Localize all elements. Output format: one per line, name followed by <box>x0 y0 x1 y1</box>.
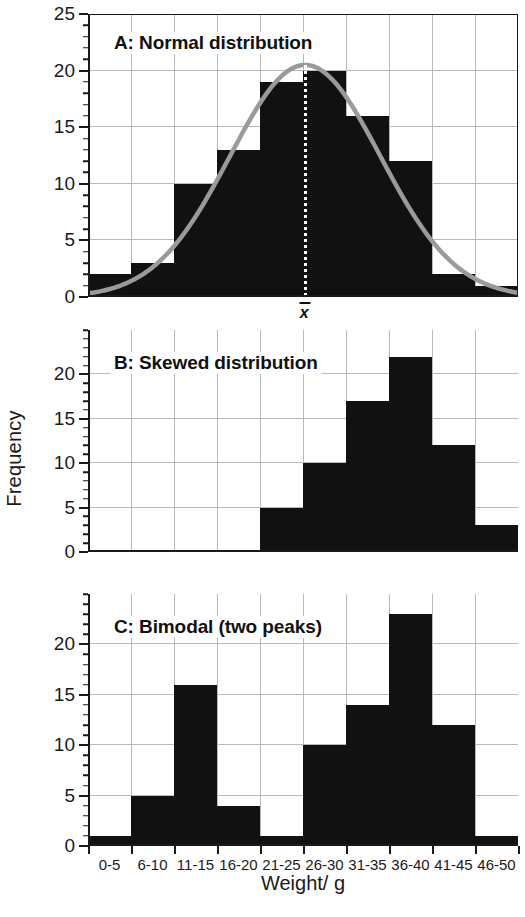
tick-mark <box>79 239 88 241</box>
gridline-horizontal <box>88 694 518 695</box>
tick-mark <box>83 217 88 219</box>
tick-mark <box>83 480 88 482</box>
y-axis-tick-label: 5 <box>64 229 75 251</box>
x-axis-category-label: 16-20 <box>219 856 257 873</box>
x-axis-tick <box>389 846 391 854</box>
tick-mark <box>83 391 88 393</box>
histogram-bar <box>217 150 260 297</box>
histogram-bar <box>432 725 475 846</box>
y-axis-tick-label: 10 <box>54 173 75 195</box>
y-axis-tick-label: 15 <box>54 684 75 706</box>
gridline-horizontal <box>88 418 518 419</box>
y-axis-tick-label: 15 <box>54 116 75 138</box>
tick-mark <box>83 329 88 331</box>
tick-mark <box>83 138 88 140</box>
x-axis-category-label: 11-15 <box>177 856 214 873</box>
histogram-bar <box>432 445 475 552</box>
tick-mark <box>79 795 88 797</box>
tick-mark <box>83 454 88 456</box>
gridline-vertical <box>475 330 476 552</box>
x-axis-category-label: 0-5 <box>99 856 121 873</box>
histogram-bar <box>131 263 174 297</box>
x-axis-tick <box>88 846 90 854</box>
tick-mark <box>83 664 88 666</box>
tick-mark <box>83 805 88 807</box>
tick-mark <box>83 194 88 196</box>
x-axis-category-label: 31-35 <box>348 856 386 873</box>
y-axis-tick-label: 10 <box>54 452 75 474</box>
x-axis-category-label: 41-45 <box>434 856 472 873</box>
tick-mark <box>79 845 88 847</box>
tick-mark <box>83 149 88 151</box>
x-axis-category-label: 46-50 <box>477 856 515 873</box>
tick-mark <box>83 785 88 787</box>
y-axis-tick-label: 15 <box>54 408 75 430</box>
tick-mark <box>79 296 88 298</box>
mean-symbol-text: x <box>300 304 309 321</box>
tick-mark <box>83 533 88 535</box>
tick-mark <box>83 347 88 349</box>
tick-mark <box>83 542 88 544</box>
tick-mark <box>83 765 88 767</box>
gridline-horizontal <box>88 643 518 644</box>
y-axis-title: Frequency <box>3 379 26 539</box>
panel-b-caption: B: Skewed distribution <box>110 352 322 374</box>
histogram-bar <box>303 71 346 297</box>
tick-mark <box>83 228 88 230</box>
tick-mark <box>83 400 88 402</box>
tick-mark <box>79 694 88 696</box>
y-axis-tick-label: 5 <box>64 785 75 807</box>
histogram-bar <box>346 705 389 846</box>
tick-mark <box>79 126 88 128</box>
histogram-bar <box>389 161 432 297</box>
mean-indicator-line <box>304 65 307 297</box>
tick-mark <box>83 516 88 518</box>
tick-mark <box>83 489 88 491</box>
tick-mark <box>83 775 88 777</box>
tick-mark <box>83 251 88 253</box>
gridline-vertical <box>131 14 132 297</box>
histogram-bar <box>346 116 389 297</box>
histogram-bar <box>389 357 432 552</box>
x-axis-tick <box>518 846 520 854</box>
x-axis-category-label: 6-10 <box>137 856 167 873</box>
tick-mark <box>83 436 88 438</box>
tick-mark <box>79 183 88 185</box>
tick-mark <box>83 734 88 736</box>
y-axis-tick-label: 5 <box>64 497 75 519</box>
tick-mark <box>79 70 88 72</box>
histogram-bar <box>174 685 217 846</box>
x-axis-tick <box>217 846 219 854</box>
tick-mark <box>83 755 88 757</box>
tick-mark <box>83 835 88 837</box>
x-axis-category-label: 36-40 <box>391 856 429 873</box>
x-axis-tick <box>174 846 176 854</box>
panel-b-x-axis <box>88 550 518 553</box>
tick-mark <box>83 285 88 287</box>
tick-mark <box>83 815 88 817</box>
panel-a-caption: A: Normal distribution <box>110 32 316 54</box>
tick-mark <box>83 115 88 117</box>
x-axis-tick <box>346 846 348 854</box>
tick-mark <box>83 603 88 605</box>
panel-c-caption: C: Bimodal (two peaks) <box>110 616 326 638</box>
tick-mark <box>83 356 88 358</box>
tick-mark <box>83 172 88 174</box>
tick-mark <box>83 825 88 827</box>
y-axis-tick-label: 0 <box>64 286 75 308</box>
histogram-figure: Frequency Weight/ g A: Normal distributi… <box>0 0 525 917</box>
y-axis-tick-label: 25 <box>54 3 75 25</box>
histogram-bar <box>260 82 303 297</box>
histogram-bar <box>303 745 346 846</box>
x-axis-title: Weight/ g <box>88 872 518 895</box>
tick-mark <box>83 47 88 49</box>
tick-mark <box>83 445 88 447</box>
tick-mark <box>79 551 88 553</box>
tick-mark <box>79 744 88 746</box>
y-axis-tick-label: 0 <box>64 835 75 857</box>
tick-mark <box>83 593 88 595</box>
histogram-bar <box>389 614 432 846</box>
histogram-bar <box>260 508 303 552</box>
tick-mark <box>83 654 88 656</box>
x-axis-tick <box>303 846 305 854</box>
